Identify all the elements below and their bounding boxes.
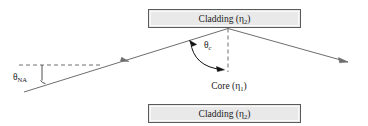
reflected-ray-line xyxy=(228,29,348,63)
optical-fiber-diagram: Cladding (η2) Cladding (η2) θ xyxy=(0,0,368,126)
na-angle-arc xyxy=(41,81,46,84)
cladding-top-label: Cladding (η2) xyxy=(199,14,251,25)
angle-na-vertical-tick xyxy=(41,65,46,84)
incoming-ray xyxy=(24,29,228,93)
reflected-ray-arrowhead xyxy=(339,58,349,63)
cladding-bottom-box: Cladding (η2) xyxy=(149,105,301,123)
cladding-bottom-label: Cladding (η2) xyxy=(199,109,251,120)
angle-na-label: θNA xyxy=(13,72,27,83)
reflected-ray xyxy=(228,29,348,63)
angle-critical-label: θc xyxy=(204,40,212,51)
core-label: Core (η1) xyxy=(211,81,246,92)
cladding-top-box: Cladding (η2) xyxy=(149,10,301,28)
critical-angle-arrowhead-lower xyxy=(217,67,225,72)
